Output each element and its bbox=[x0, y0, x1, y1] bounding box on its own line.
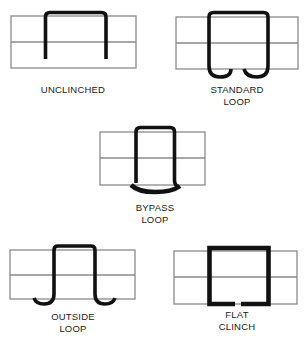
staple-bypass-loop bbox=[136, 128, 178, 188]
label-unclinched: UNCLINCHED bbox=[41, 84, 105, 95]
panel-unclinched: UNCLINCHED bbox=[11, 13, 136, 96]
board-layers bbox=[11, 16, 136, 68]
panel-standard-loop: STANDARD LOOP bbox=[176, 13, 298, 108]
panel-bypass-loop: BYPASS LOOP bbox=[100, 128, 205, 226]
label-flat-line1: FLAT bbox=[225, 309, 248, 320]
label-standard-line1: STANDARD bbox=[210, 84, 263, 95]
staple-clinch-diagram: UNCLINCHED STANDARD LOOP BYPASS LOOP OUT… bbox=[0, 0, 305, 346]
label-bypass-line1: BYPASS bbox=[136, 202, 175, 213]
staple-unclinched bbox=[46, 13, 107, 60]
panel-outside-loop: OUTSIDE LOOP bbox=[10, 246, 135, 334]
board-layers bbox=[10, 250, 135, 299]
staple-standard-loop-left-curl bbox=[209, 66, 231, 77]
board-layers bbox=[100, 132, 205, 185]
staple-standard-loop bbox=[209, 13, 268, 78]
staple-flat-clinch bbox=[210, 248, 269, 304]
staple-bypass-loop-curve bbox=[131, 185, 180, 192]
label-outside-line1: OUTSIDE bbox=[51, 311, 95, 322]
board-layers bbox=[174, 251, 297, 304]
label-outside-line2: LOOP bbox=[59, 323, 86, 334]
panel-flat-clinch: FLAT CLINCH bbox=[174, 248, 297, 332]
label-bypass-line2: LOOP bbox=[141, 214, 168, 225]
label-flat-line2: CLINCH bbox=[219, 321, 256, 332]
label-standard-line2: LOOP bbox=[223, 96, 250, 107]
board-layers bbox=[176, 17, 298, 69]
